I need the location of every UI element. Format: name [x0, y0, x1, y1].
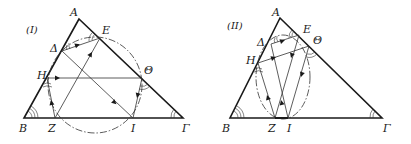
vertex-label-gamma: Γ [382, 122, 391, 135]
figure-tag: (II) [227, 20, 243, 31]
angle-marks [234, 30, 375, 118]
vertex-label-b: B [18, 122, 27, 135]
point-label-z: Z [47, 122, 56, 135]
point-label-theta: Θ [313, 34, 322, 47]
vertex-label-b: B [221, 122, 230, 135]
point-label-i: I [130, 122, 136, 135]
vertex-label-a: A [271, 6, 280, 19]
figure-tag: (I) [26, 24, 38, 35]
point-label-e: E [101, 24, 110, 37]
point-label-delta: Δ [256, 36, 265, 49]
point-label-e: E [302, 23, 311, 36]
direction-arrows [265, 38, 305, 106]
vertex-label-gamma: Γ [181, 122, 190, 135]
point-label-theta: Θ [144, 64, 153, 77]
point-label-h: H [36, 69, 47, 82]
point-label-z: Z [267, 122, 276, 135]
figure-2: (II) A B Γ E Δ H Θ Z I [221, 6, 391, 135]
point-label-delta: Δ [49, 42, 58, 55]
diagram-canvas: (I) A B Γ E Δ H Θ Z I [0, 0, 411, 144]
point-label-i: I [286, 122, 292, 135]
vertex-label-a: A [69, 6, 78, 19]
figure-1: (I) A B Γ E Δ H Θ Z I [18, 6, 190, 135]
point-label-h: H [245, 54, 256, 67]
